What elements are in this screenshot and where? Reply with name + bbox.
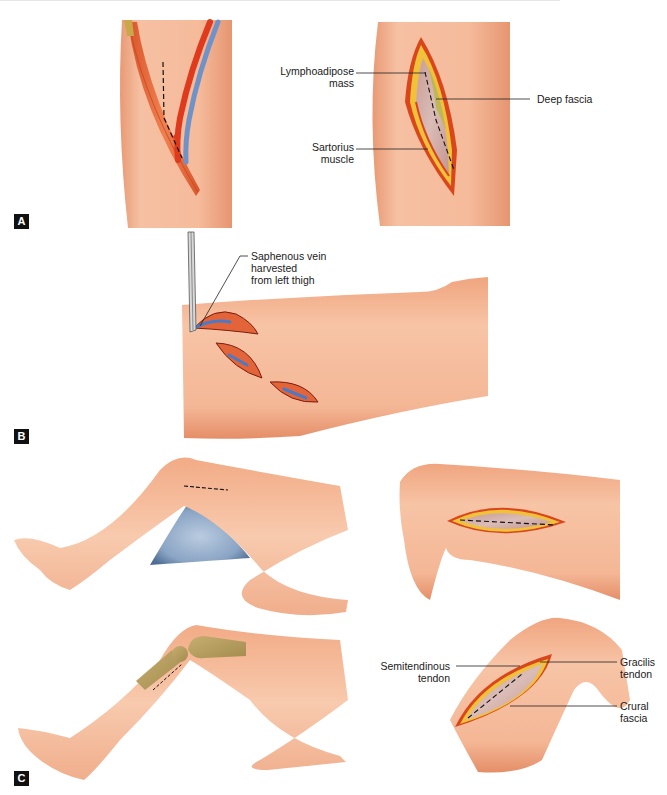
- panel-tag-a: A: [14, 214, 29, 229]
- label-sartorius-muscle: Sartorius muscle: [280, 141, 354, 165]
- label-crural-fascia: Crural fascia: [620, 700, 649, 724]
- thigh-skip-incisions-illustration: [182, 232, 488, 439]
- label-gracilis-tendon: Gracilis tendon: [620, 656, 655, 680]
- leg-with-bones-illustration: [18, 625, 348, 780]
- panel-a: [120, 20, 530, 228]
- thigh-horizontal-incision-illustration: [400, 464, 621, 600]
- label-saphenous-vein: Saphenous vein harvested from left thigh: [251, 250, 326, 286]
- panel-c: [14, 458, 630, 780]
- panel-b: [182, 232, 488, 439]
- thigh-vessels-illustration: [120, 20, 232, 228]
- panel-tag-b: B: [14, 429, 29, 444]
- label-deep-fascia: Deep fascia: [537, 93, 592, 105]
- panel-tag-c: C: [14, 771, 29, 786]
- thigh-incision-open-illustration: [356, 22, 530, 226]
- anatomical-figure: Lymphoadipose mass Deep fascia Sartorius…: [0, 0, 667, 795]
- label-lymphoadipose-mass: Lymphoadipose mass: [260, 65, 354, 89]
- leg-on-wedge-illustration: [14, 458, 348, 616]
- label-semitendinous-tendon: Semitendinous tendon: [370, 660, 450, 684]
- knee-incision-open-illustration: [450, 618, 630, 773]
- illustration-canvas: [0, 0, 667, 795]
